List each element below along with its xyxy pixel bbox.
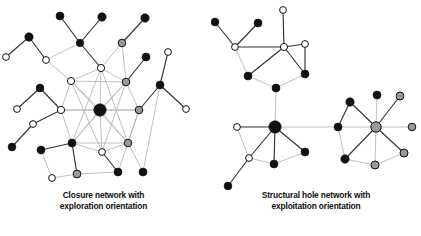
network-node-black xyxy=(37,146,45,154)
network-node-black xyxy=(254,19,262,27)
network-node-gray xyxy=(396,92,404,100)
network-edge xyxy=(122,43,126,82)
network-node-black xyxy=(98,13,106,21)
network-node-gray xyxy=(73,170,81,178)
network-edge xyxy=(128,110,139,143)
network-node-white xyxy=(99,149,106,156)
network-edge xyxy=(160,52,168,85)
network-edge xyxy=(122,18,145,43)
network-edge xyxy=(40,88,61,110)
network-node-black xyxy=(272,84,280,92)
network-node-black xyxy=(114,168,122,176)
network-node-black xyxy=(373,91,381,99)
network-node-white xyxy=(43,57,50,64)
network-edge xyxy=(80,17,102,43)
network-edge xyxy=(215,22,235,47)
nodes-layer xyxy=(3,7,416,190)
network-node-white xyxy=(280,43,287,50)
network-node-gray xyxy=(124,139,132,147)
network-node-gray xyxy=(371,122,381,132)
caption-closure-network: Closure network with exploration orienta… xyxy=(6,190,201,212)
network-node-white xyxy=(232,44,239,51)
network-edge xyxy=(248,47,284,76)
network-node-white xyxy=(57,106,64,113)
network-node-white xyxy=(14,106,21,113)
network-edge xyxy=(126,57,146,82)
network-edge xyxy=(284,47,305,74)
network-edge xyxy=(41,143,72,150)
network-node-black xyxy=(244,72,252,80)
network-node-black xyxy=(156,81,164,89)
caption-structural-hole-network: Structural hole network with exploitatio… xyxy=(216,190,416,212)
network-edge xyxy=(274,152,305,164)
network-edge xyxy=(33,110,61,124)
network-node-gray xyxy=(135,106,143,114)
network-node-black xyxy=(141,14,149,22)
network-edge xyxy=(345,127,376,159)
network-edge xyxy=(376,127,404,153)
network-edge xyxy=(80,43,101,68)
network-node-black xyxy=(301,70,309,78)
network-edge xyxy=(235,47,248,76)
caption-left-line-1: Closure network with xyxy=(6,190,201,201)
network-edge xyxy=(46,43,80,60)
network-node-white xyxy=(67,77,74,84)
network-edge xyxy=(77,172,118,174)
network-node-gray xyxy=(371,161,379,169)
network-edge xyxy=(72,143,77,174)
network-edge xyxy=(248,76,276,88)
network-node-black xyxy=(68,139,76,147)
network-edge xyxy=(17,88,40,109)
network-node-white xyxy=(280,7,287,14)
network-edge xyxy=(6,37,29,57)
network-edge xyxy=(237,127,249,158)
network-edge xyxy=(41,150,52,178)
network-node-black xyxy=(346,98,354,106)
network-node-black xyxy=(211,18,219,26)
network-node-black xyxy=(8,143,16,151)
network-edge xyxy=(71,81,126,82)
network-node-white xyxy=(30,121,37,128)
network-node-black xyxy=(56,12,64,20)
network-edge xyxy=(72,143,102,152)
network-diagram-canvas xyxy=(0,0,421,190)
network-edge xyxy=(61,110,72,143)
network-edge xyxy=(128,143,143,172)
network-node-white xyxy=(234,124,241,131)
network-edge xyxy=(101,43,122,68)
network-node-black xyxy=(25,33,33,41)
network-node-white xyxy=(183,106,190,113)
network-node-black xyxy=(139,168,147,176)
network-edge xyxy=(235,23,258,47)
network-node-gray xyxy=(122,78,130,86)
network-edge xyxy=(60,16,80,43)
network-edge xyxy=(160,85,186,109)
network-edge xyxy=(228,158,249,186)
network-node-white xyxy=(246,155,253,162)
network-node-black xyxy=(76,39,84,47)
network-node-black xyxy=(270,160,278,168)
network-edge xyxy=(126,82,139,110)
network-node-black xyxy=(341,155,349,163)
network-node-white xyxy=(49,175,56,182)
network-node-black xyxy=(142,53,150,61)
network-node-gray xyxy=(408,123,416,131)
network-node-white xyxy=(165,49,172,56)
network-edge xyxy=(283,10,284,47)
caption-left-line-2: exploration orientation xyxy=(6,201,201,212)
network-node-white xyxy=(302,41,309,48)
network-edge xyxy=(46,60,71,81)
network-node-black xyxy=(334,123,342,131)
network-edge xyxy=(61,81,71,110)
network-edge xyxy=(118,143,128,172)
network-node-black xyxy=(36,84,44,92)
network-node-black xyxy=(301,148,309,156)
network-node-white xyxy=(3,54,10,61)
network-edge xyxy=(376,96,400,127)
network-figure: Closure network with exploration orienta… xyxy=(0,0,421,236)
network-node-gray xyxy=(118,39,126,47)
network-edge xyxy=(12,124,33,147)
network-edge xyxy=(345,159,375,165)
network-node-gray xyxy=(400,149,408,157)
network-node-black xyxy=(224,182,232,190)
